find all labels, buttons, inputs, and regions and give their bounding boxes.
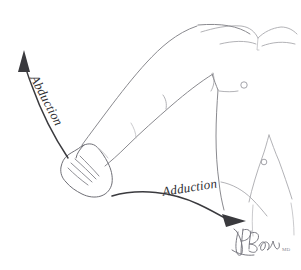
clavicle-left-line [201, 26, 258, 38]
elbow-crease-line [163, 95, 166, 109]
pectoral-line [219, 91, 238, 92]
arm-outer-contour [82, 26, 197, 145]
illustration-canvas: Abduction Adduction MD [0, 0, 301, 270]
sternal-notch-line [220, 41, 256, 44]
adduction-arrow-head-icon [222, 214, 246, 227]
adduction-label: Adduction [160, 176, 218, 200]
wrist-line [97, 147, 108, 158]
abdomen-rib-left-line [249, 135, 269, 202]
clavicle-group [201, 26, 297, 50]
torso-group [212, 74, 267, 216]
rib-contour-line [221, 182, 267, 216]
clavicle-right-line [258, 27, 297, 38]
abduction-arrow-head-icon [18, 50, 30, 72]
abdomen-group [249, 135, 294, 236]
hand-group [61, 144, 113, 197]
signature-credential: MD [282, 247, 290, 252]
abdomen-right-flank-line [291, 203, 294, 235]
abdomen-left-flank-line [252, 205, 253, 236]
nipple-marker-icon [241, 82, 247, 88]
arm-inner-contour [105, 74, 213, 166]
forearm-muscle-line [131, 123, 136, 138]
hand-outline [61, 144, 113, 197]
signature-name-rest [259, 241, 279, 250]
navel-marker-icon [261, 159, 267, 165]
medical-illustration-figure: Abduction Adduction MD [0, 0, 301, 270]
sternal-notch-right-line [262, 42, 295, 46]
signature-name-b [249, 231, 259, 252]
signature-flourish [232, 250, 254, 255]
abduction-arrow-group: Abduction [18, 50, 68, 158]
torso-left-flank-line [216, 90, 224, 210]
arm-group [82, 24, 250, 166]
neck-v-line [257, 38, 259, 50]
hand-finger-line-1 [68, 168, 88, 185]
signature-group: MD [232, 229, 290, 255]
abdomen-rib-right-line [269, 135, 292, 199]
